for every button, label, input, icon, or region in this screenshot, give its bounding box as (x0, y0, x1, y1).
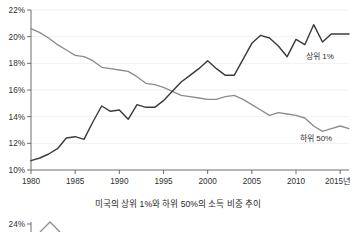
y-tick-label-18: 18% (9, 59, 25, 68)
series-label-bottom-50: 하위 50% (300, 133, 332, 143)
next-chart-y-tick-label: 24% (9, 220, 25, 229)
x-tick-label-1985: 1985 (66, 177, 85, 186)
y-tick-label-14: 14% (9, 113, 25, 122)
series-label-top-1: 상위 1% (306, 51, 334, 61)
next-chart-partial-line (40, 222, 60, 232)
x-tick-label-2000: 2000 (199, 177, 218, 186)
x-tick-label-1980: 1980 (22, 177, 41, 186)
x-tick-label-2005: 2005 (243, 177, 262, 186)
y-tick-label-22: 22% (9, 6, 25, 15)
line-chart: 22% 20% 18% 16% 14% 12% 10% 1980 1985 19… (0, 0, 353, 232)
x-tick-label-1990: 1990 (110, 177, 129, 186)
y-tick-label-16: 16% (9, 86, 25, 95)
y-tick-label-20: 20% (9, 33, 25, 42)
x-tick-label-2010: 2010 (287, 177, 306, 186)
x-tick-label-1995: 1995 (154, 177, 173, 186)
x-tick-label-2015: 2015년 (325, 176, 351, 186)
gridlines (31, 10, 349, 143)
income-share-figure: 22% 20% 18% 16% 14% 12% 10% 1980 1985 19… (0, 0, 353, 232)
y-tick-label-12: 12% (9, 139, 25, 148)
series-line-bottom-50 (31, 29, 349, 132)
x-tick-marks (31, 170, 340, 174)
y-tick-marks (27, 10, 31, 170)
y-tick-label-10: 10% (9, 166, 25, 175)
next-chart-preview: 24% (9, 220, 60, 232)
chart-caption: 미국의 상위 1%와 하위 50%의 소득 비중 추이 (95, 198, 261, 209)
